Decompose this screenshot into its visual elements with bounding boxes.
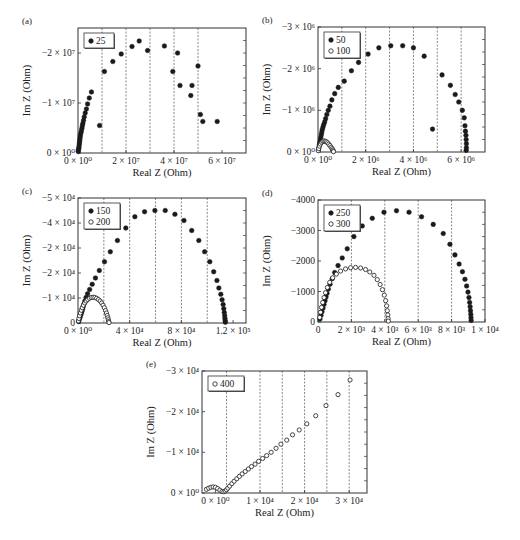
- data-point: [370, 216, 375, 221]
- data-point: [325, 285, 329, 289]
- data-point: [394, 208, 399, 213]
- chart-panel-d: 02 × 10³4 × 10³6 × 10³8 × 10³1 × 10⁴0−10…: [261, 188, 500, 348]
- data-point: [189, 228, 194, 233]
- data-point: [305, 422, 309, 426]
- data-point: [464, 137, 469, 142]
- data-point: [137, 39, 142, 44]
- data-point: [178, 83, 183, 88]
- data-point: [464, 284, 469, 289]
- data-point: [145, 48, 150, 53]
- data-point: [215, 119, 220, 124]
- data-point: [142, 209, 147, 214]
- y-tick-label: −3 × 10⁴: [166, 366, 200, 376]
- data-point: [352, 234, 357, 239]
- legend-label: 300: [336, 219, 351, 229]
- legend-label: 250: [336, 208, 351, 218]
- data-point: [448, 83, 453, 88]
- panel-label: (e): [146, 359, 156, 369]
- filled-marker-icon: [329, 211, 333, 215]
- data-point: [261, 456, 265, 460]
- data-point: [318, 310, 322, 314]
- x-tick-label: 0 × 10⁰: [64, 326, 92, 336]
- data-point: [368, 270, 372, 274]
- data-point: [89, 90, 94, 95]
- data-point: [328, 104, 333, 109]
- y-tick-label: −1 × 10⁴: [42, 293, 76, 303]
- chart-panel-a: 0 × 10⁰2 × 10⁷4 × 10⁷6 × 10⁷0 × 10⁰−1 × …: [21, 16, 246, 179]
- y-tick-label: −2 × 10⁷: [42, 48, 75, 58]
- data-point: [422, 54, 427, 59]
- data-point: [115, 238, 120, 243]
- data-point: [163, 208, 168, 213]
- y-tick-label: −3 × 10⁶: [282, 22, 315, 32]
- x-tick-label: 6 × 10⁷: [208, 156, 236, 166]
- data-point: [431, 222, 436, 227]
- x-tick-label: 6 × 10⁶: [447, 155, 475, 165]
- open-marker-icon: [213, 382, 217, 386]
- data-point: [279, 442, 283, 446]
- data-point: [208, 259, 213, 264]
- y-tick-label: −1 × 10⁶: [282, 105, 315, 115]
- data-point: [380, 288, 384, 292]
- data-point: [388, 43, 393, 48]
- data-point: [314, 414, 318, 418]
- data-point: [325, 112, 330, 117]
- data-point: [153, 208, 158, 213]
- data-point: [377, 46, 382, 51]
- x-tick-label: 4 × 10³: [371, 325, 398, 335]
- data-point: [453, 253, 458, 258]
- data-point: [469, 318, 474, 323]
- legend: 50100: [324, 32, 361, 59]
- data-point: [375, 278, 379, 282]
- data-point: [463, 129, 468, 134]
- data-point: [189, 93, 194, 98]
- data-point: [419, 214, 424, 219]
- impedance-figure: 0 × 10⁰2 × 10⁷4 × 10⁷6 × 10⁷0 × 10⁰−1 × …: [0, 0, 520, 540]
- data-point: [124, 226, 129, 231]
- data-point: [175, 51, 180, 56]
- data-point: [386, 319, 390, 323]
- data-point: [466, 290, 471, 295]
- data-point: [382, 293, 386, 297]
- y-tick-label: −1 × 10⁴: [166, 447, 200, 457]
- data-point: [384, 299, 388, 303]
- x-tick-label: 2 × 10³: [338, 325, 365, 335]
- data-point: [464, 141, 469, 146]
- data-point: [363, 267, 367, 271]
- data-point: [318, 315, 322, 319]
- y-tick-label: −5 × 10⁴: [42, 193, 76, 203]
- x-tick-label: 8 × 10⁴: [168, 326, 196, 336]
- data-point: [90, 282, 95, 287]
- filled-marker-icon: [89, 209, 93, 213]
- data-point: [457, 262, 462, 267]
- open-marker-icon: [329, 222, 333, 226]
- x-tick-label: 4 × 10⁶: [400, 155, 428, 165]
- data-point: [211, 269, 216, 274]
- y-tick-label: 0: [310, 317, 315, 327]
- data-point: [219, 292, 224, 297]
- data-point: [378, 282, 382, 286]
- data-point: [171, 69, 176, 74]
- data-point: [343, 267, 347, 271]
- data-point: [215, 278, 220, 283]
- data-point: [330, 98, 335, 103]
- y-axis-title: Im Z (Ohm): [145, 406, 157, 458]
- data-point: [85, 291, 90, 296]
- open-marker-icon: [89, 220, 93, 224]
- chart-panel-c: 0 × 10⁰4 × 10⁴8 × 10⁴1.2 × 10⁵0−1 × 10⁴−…: [21, 186, 250, 349]
- data-point: [382, 210, 387, 215]
- data-point: [331, 150, 335, 154]
- data-point: [460, 108, 465, 113]
- data-point: [338, 269, 342, 273]
- data-point: [467, 295, 472, 300]
- panel-label: (c): [22, 186, 32, 196]
- y-axis-title: Im Z (Ohm): [21, 234, 33, 286]
- y-tick-label: −2 × 10⁴: [42, 243, 76, 253]
- data-point: [463, 277, 468, 282]
- data-point: [411, 46, 416, 51]
- data-point: [448, 242, 453, 247]
- data-point: [285, 438, 289, 442]
- data-point: [87, 96, 92, 101]
- legend: 25: [84, 33, 115, 49]
- data-point: [385, 304, 389, 308]
